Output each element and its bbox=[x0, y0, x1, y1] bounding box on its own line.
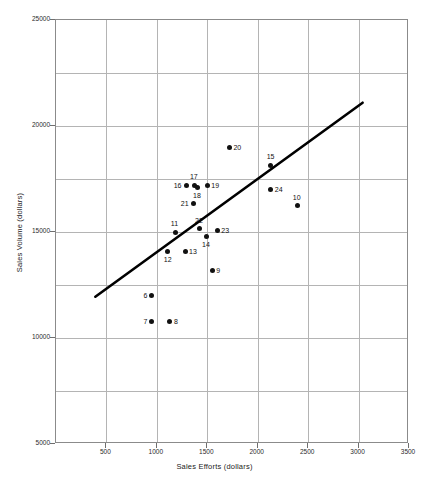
trend-line-layer bbox=[0, 0, 429, 488]
trend-line bbox=[95, 103, 362, 297]
scatter-chart: Sales Volume (dollars) Sales Efforts (do… bbox=[0, 0, 429, 488]
